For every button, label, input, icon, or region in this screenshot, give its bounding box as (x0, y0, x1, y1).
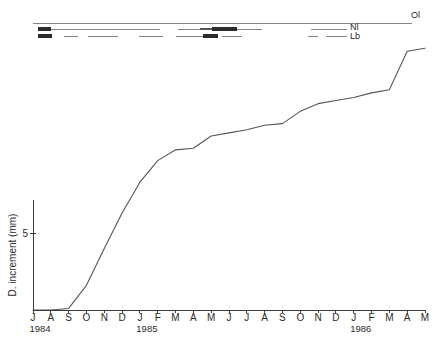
x-axis-month-label: A (261, 312, 268, 323)
x-axis-year-labels: 198419851986 (29, 323, 371, 334)
x-axis-month-label: J (351, 312, 356, 323)
chart-plot-area: JASONDJFMAMJJASONDJFMAM 198419851986 5 D… (0, 0, 439, 343)
x-axis-month-label: M (385, 312, 393, 323)
y-axis-tick-label-5: 5 (22, 228, 28, 239)
x-axis-month-label: D (118, 312, 125, 323)
x-axis-year-label: 1986 (350, 323, 371, 334)
x-axis-month-label: M (171, 312, 179, 323)
x-axis-month-label: M (421, 312, 429, 323)
x-axis-month-label: S (279, 312, 286, 323)
x-axis-month-label: N (314, 312, 321, 323)
x-axis-month-label: O (296, 312, 304, 323)
chart-figure: JASONDJFMAMJJASONDJFMAM 198419851986 5 D… (0, 0, 439, 343)
x-axis-month-label: N (101, 312, 108, 323)
event-row-labels: OlNlLb (350, 10, 420, 41)
x-axis-month-label: A (47, 312, 54, 323)
event-row-label-ol: Ol (411, 10, 420, 20)
x-axis-month-label: J (31, 312, 36, 323)
x-axis-year-label: 1984 (29, 323, 50, 334)
x-axis-month-label: F (155, 312, 161, 323)
x-axis-month-label: O (83, 312, 91, 323)
x-axis-month-label: D (332, 312, 339, 323)
x-axis-month-label: J (244, 312, 249, 323)
x-axis-month-labels: JASONDJFMAMJJASONDJFMAM (31, 312, 430, 323)
x-axis-month-label: F (368, 312, 374, 323)
x-axis-month-label: M (207, 312, 215, 323)
increment-curve (33, 48, 425, 310)
x-axis-month-label: S (65, 312, 72, 323)
x-axis-month-label: A (190, 312, 197, 323)
event-row-label-lb: Lb (350, 31, 360, 41)
x-axis-month-label: A (404, 312, 411, 323)
x-axis-year-label: 1985 (136, 323, 157, 334)
x-axis-month-label: J (227, 312, 232, 323)
x-axis-month-label: J (137, 312, 142, 323)
y-axis-title: D. increment (mm) (7, 214, 18, 297)
